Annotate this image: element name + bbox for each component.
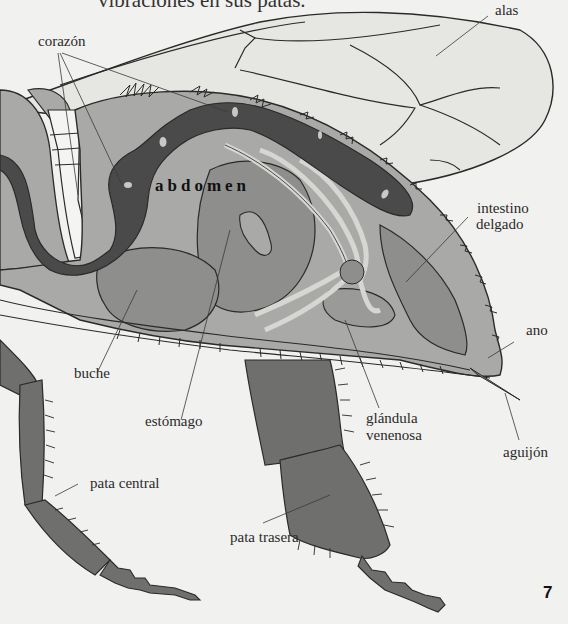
label-glandula-line2: venenosa bbox=[366, 427, 422, 443]
page-number: 7 bbox=[543, 583, 552, 603]
bee-anatomy-page: vibraciones en sus patas. bbox=[0, 0, 568, 624]
abdomen-label: abdomen bbox=[155, 176, 250, 196]
label-intestino-line1: intestino bbox=[477, 200, 529, 216]
label-glandula-line1: glándula bbox=[366, 410, 418, 426]
label-buche: buche bbox=[74, 365, 110, 381]
label-corazon: corazón bbox=[38, 33, 85, 49]
label-alas: alas bbox=[495, 2, 518, 18]
label-pata-central: pata central bbox=[90, 475, 160, 491]
label-aguijon: aguijón bbox=[503, 444, 548, 460]
label-pata-trasera: pata trasera bbox=[230, 529, 299, 545]
label-estomago: estómago bbox=[145, 413, 203, 429]
label-ano: ano bbox=[526, 322, 548, 338]
label-intestino-line2: delgado bbox=[476, 216, 523, 232]
hind-leg bbox=[245, 360, 445, 612]
